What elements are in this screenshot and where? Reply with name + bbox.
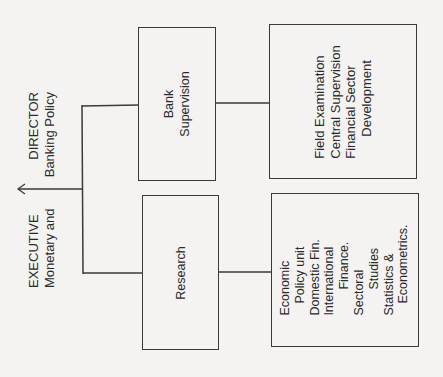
unit-item: International: [323, 224, 338, 315]
division-name-line: Bank: [161, 71, 177, 136]
unit-item: Econometrics.: [397, 224, 412, 315]
unit-item: Development: [359, 45, 375, 158]
bank-supervision-box: Bank Supervision: [138, 27, 216, 181]
unit-item: Field Examination: [312, 45, 328, 158]
unit-item: Domestic Fin.: [308, 224, 323, 315]
bracket-vertical-line: [82, 105, 83, 274]
banking-policy-label: Banking Policy: [42, 92, 58, 177]
executive-director-label: EXECUTIVE DIRECTOR Monetary and Banking …: [16, 90, 68, 290]
research-box: Research: [142, 195, 219, 350]
monetary-label: Monetary and: [42, 209, 58, 289]
unit-item: Economic: [278, 224, 293, 315]
division-name-line: Supervision: [177, 71, 193, 136]
unit-item: Financial Sector: [343, 45, 359, 158]
unit-item: Finance.: [338, 224, 353, 315]
supervision-units-box: Field Examination Central Supervision Fi…: [269, 24, 417, 179]
bracket-top-line: [82, 105, 139, 106]
director-label: DIRECTOR: [26, 92, 42, 160]
research-units-box: Economic Policy unit Domestic Fin. Inter…: [271, 193, 419, 347]
unit-item: Statistics &: [382, 224, 397, 315]
unit-item: Sectoral: [352, 224, 367, 315]
unit-item: Studies: [367, 224, 382, 315]
unit-item: Policy unit: [293, 224, 308, 315]
executive-label: EXECUTIVE: [26, 214, 42, 288]
division-name-line: Research: [173, 246, 189, 300]
unit-item: Central Supervision: [328, 45, 344, 158]
